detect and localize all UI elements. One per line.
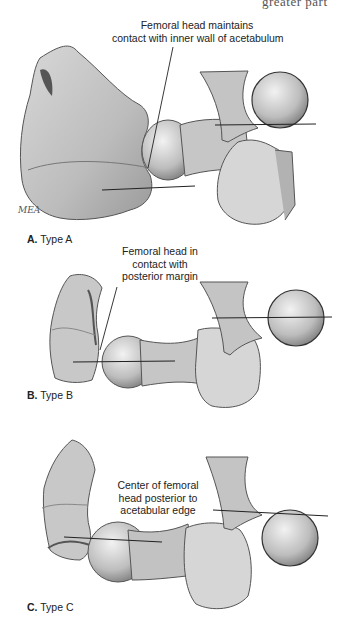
panel-b-label: B. Type B bbox=[27, 389, 73, 401]
greater-trochanter bbox=[184, 523, 251, 609]
panel-c-label: C. Type C bbox=[27, 601, 74, 613]
inset-acetabular-wall bbox=[206, 457, 262, 530]
panel-c-illustration bbox=[0, 430, 351, 600]
inset-femoral-head bbox=[252, 72, 308, 128]
panel-type: Type A bbox=[40, 233, 72, 245]
panel-a-label: A. Type A bbox=[27, 233, 72, 245]
panel-type: Type B bbox=[40, 389, 73, 401]
panel-letter: A. bbox=[27, 233, 38, 245]
page-header-fragment: greater part bbox=[262, 0, 328, 10]
annotation-line: Femoral head maintains bbox=[112, 19, 282, 32]
artist-signature: MEA bbox=[18, 205, 40, 215]
inset-femoral-head bbox=[262, 510, 318, 566]
panel-a-illustration bbox=[0, 40, 351, 230]
panel-type: Type C bbox=[40, 601, 73, 613]
panel-letter: C. bbox=[27, 601, 38, 613]
panel-b-illustration bbox=[0, 260, 351, 400]
panel-letter: B. bbox=[27, 389, 38, 401]
pelvis-shape bbox=[20, 46, 151, 220]
annotation-line: Femoral head in bbox=[110, 245, 210, 258]
inset-femoral-head bbox=[268, 290, 324, 346]
